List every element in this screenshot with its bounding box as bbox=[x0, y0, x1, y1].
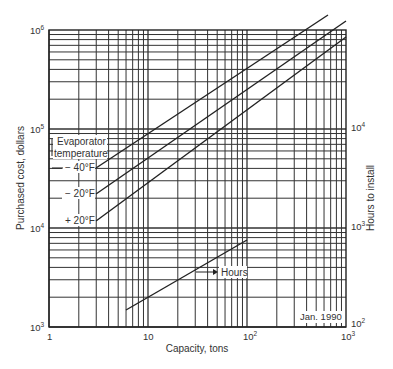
y2-tick-1e4: 104 bbox=[351, 121, 366, 133]
y-axis-label: Purchased cost, dollars bbox=[15, 126, 26, 230]
x-axis-label: Capacity, tons bbox=[166, 343, 229, 354]
x-tick-10: 10 bbox=[143, 331, 154, 342]
evap-title-line2: temperature bbox=[54, 148, 108, 159]
y2-axis-label: Hours to install bbox=[365, 165, 376, 231]
grid bbox=[49, 30, 346, 327]
y-tick-1e4: 104 bbox=[30, 222, 45, 234]
log-log-chart: Evaporator temperature − 40°F − 20°F + 2… bbox=[0, 0, 393, 369]
y-tick-1e6: 106 bbox=[30, 24, 45, 36]
y-tick-1e3: 103 bbox=[30, 321, 45, 333]
x-tick-100: 102 bbox=[243, 330, 258, 342]
y-tick-1e5: 105 bbox=[30, 123, 45, 135]
label-minus20: − 20°F bbox=[65, 188, 95, 199]
y2-tick-1e3: 103 bbox=[351, 220, 366, 232]
label-hours: Hours bbox=[221, 267, 248, 278]
label-minus40: − 40°F bbox=[65, 162, 95, 173]
plot-frame bbox=[49, 30, 346, 327]
evap-title-line1: Evaporator bbox=[57, 136, 107, 147]
x-tick-1000: 103 bbox=[341, 330, 356, 342]
y2-tick-1e2: 102 bbox=[351, 317, 366, 329]
x-tick-1: 1 bbox=[47, 331, 52, 342]
label-date: Jan. 1990 bbox=[300, 311, 342, 322]
label-plus20: + 20°F bbox=[65, 215, 95, 226]
line-minus40 bbox=[96, 15, 328, 168]
